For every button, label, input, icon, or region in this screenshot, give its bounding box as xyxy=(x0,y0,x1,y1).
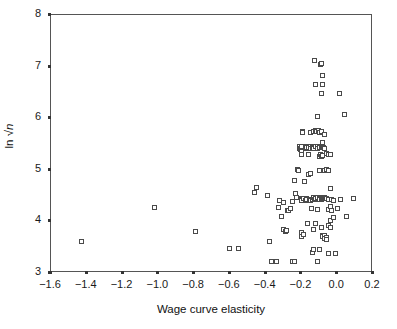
data-point xyxy=(227,246,232,251)
data-point xyxy=(254,185,259,190)
plot-area xyxy=(50,14,372,272)
data-point xyxy=(337,91,342,96)
y-tick-label: 6 xyxy=(13,111,41,122)
y-tick-mark xyxy=(48,219,51,222)
data-point xyxy=(267,239,272,244)
data-point xyxy=(296,168,301,173)
data-point xyxy=(344,214,349,219)
x-tick-label: −0.4 xyxy=(245,279,285,290)
data-point xyxy=(319,225,324,230)
data-point xyxy=(300,130,305,135)
x-tick-mark xyxy=(192,271,195,274)
data-point xyxy=(328,225,333,230)
data-point xyxy=(331,198,336,203)
data-point xyxy=(338,197,343,202)
x-tick-mark xyxy=(299,271,302,274)
data-point xyxy=(333,251,338,256)
data-point xyxy=(319,91,324,96)
data-point xyxy=(274,259,279,264)
data-point xyxy=(331,215,336,220)
y-tick-mark xyxy=(48,116,51,119)
data-point xyxy=(299,152,304,157)
data-point xyxy=(315,114,320,119)
data-point xyxy=(292,259,297,264)
data-point xyxy=(284,228,289,233)
data-point xyxy=(193,229,198,234)
y-tick-label: 7 xyxy=(13,60,41,71)
data-point xyxy=(326,168,331,173)
x-tick-mark xyxy=(49,271,52,274)
data-point xyxy=(329,208,334,213)
y-tick-label: 4 xyxy=(13,214,41,225)
x-tick-mark xyxy=(156,271,159,274)
x-tick-mark xyxy=(228,271,231,274)
y-tick-label: 3 xyxy=(13,266,41,277)
data-point xyxy=(276,205,281,210)
x-tick-label: −0.6 xyxy=(209,279,249,290)
x-tick-label: −0.2 xyxy=(280,279,320,290)
data-point xyxy=(306,152,311,157)
data-point xyxy=(320,82,325,87)
data-point xyxy=(342,112,347,117)
data-point xyxy=(265,193,270,198)
data-point xyxy=(308,171,313,176)
y-axis-title-prefix: ln xyxy=(3,136,15,148)
data-point xyxy=(290,199,295,204)
data-point xyxy=(305,221,310,226)
data-point xyxy=(279,214,284,219)
data-point xyxy=(322,132,327,137)
x-tick-label: −1.2 xyxy=(102,279,142,290)
x-tick-label: 0.0 xyxy=(316,279,356,290)
x-tick-label: −1.4 xyxy=(66,279,106,290)
data-point xyxy=(294,195,299,200)
y-tick-mark xyxy=(48,13,51,16)
data-point xyxy=(328,186,333,191)
data-point xyxy=(335,206,340,211)
scatter-plot-figure: 345678 −1.6−1.4−1.2−1.0−0.8−0.6−0.4−0.20… xyxy=(0,0,397,329)
data-point xyxy=(317,247,322,252)
data-point xyxy=(309,206,314,211)
y-tick-mark xyxy=(48,168,51,171)
data-point xyxy=(317,168,322,173)
data-point xyxy=(281,200,286,205)
data-point xyxy=(79,239,84,244)
data-point xyxy=(269,259,274,264)
y-tick-mark xyxy=(48,65,51,68)
x-tick-mark xyxy=(85,271,88,274)
data-point xyxy=(311,227,316,232)
y-axis-title: ln √n xyxy=(3,96,15,176)
data-point xyxy=(312,58,317,63)
data-point xyxy=(288,206,293,211)
data-point xyxy=(152,205,157,210)
y-axis-title-variable: n xyxy=(3,124,15,130)
data-point xyxy=(302,179,307,184)
data-point xyxy=(311,247,316,252)
y-tick-label: 5 xyxy=(13,163,41,174)
data-point xyxy=(315,207,320,212)
data-point xyxy=(313,82,318,87)
data-point xyxy=(292,178,297,183)
data-point xyxy=(313,221,318,226)
data-point xyxy=(252,190,257,195)
data-point xyxy=(320,73,325,78)
data-point xyxy=(351,196,356,201)
x-axis-title: Wage curve elasticity xyxy=(50,303,372,315)
data-point xyxy=(301,232,306,237)
x-tick-mark xyxy=(121,271,124,274)
x-tick-mark xyxy=(264,271,267,274)
x-tick-label: −1.0 xyxy=(137,279,177,290)
data-point xyxy=(315,259,320,264)
data-point xyxy=(326,251,331,256)
radical-icon: √ xyxy=(3,130,15,136)
x-tick-mark xyxy=(335,271,338,274)
x-tick-mark xyxy=(371,271,374,274)
x-tick-label: −1.6 xyxy=(30,279,70,290)
y-tick-label: 8 xyxy=(13,8,41,19)
data-point xyxy=(319,61,324,66)
data-point xyxy=(236,246,241,251)
x-tick-label: 0.2 xyxy=(352,279,392,290)
data-point xyxy=(324,237,329,242)
data-point xyxy=(328,152,333,157)
x-tick-label: −0.8 xyxy=(173,279,213,290)
